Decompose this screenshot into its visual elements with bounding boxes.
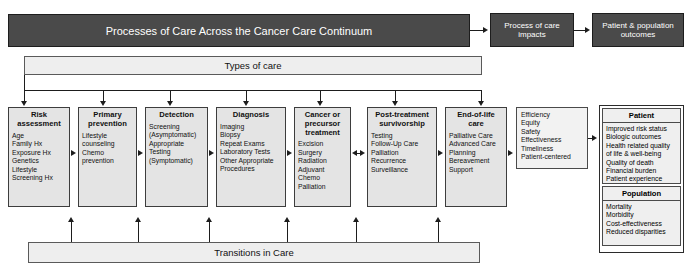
stage-box-post-treatment-survivorship[interactable]: Post-treatment survivorship Testing Foll… <box>367 107 437 207</box>
stage-items-end-of-life-care: Palliative Care Advanced Care Planning B… <box>449 132 503 175</box>
flow-arrow-prevention-to-detection <box>138 150 143 156</box>
stage-title-post-treatment-survivorship: Post-treatment survivorship <box>371 111 433 129</box>
riser-line-transitions-6 <box>438 222 439 242</box>
process-of-care-impacts-text: Process of care impacts <box>491 21 573 40</box>
drop-arrow-risk-assessment <box>21 101 27 106</box>
stage-items-cancer-or-precursor-treatment: Excision Surgery Radiation Adjuvant Chem… <box>298 140 347 191</box>
stage-box-diagnosis[interactable]: Diagnosis Imaging Biopsy Repeat Exams La… <box>216 107 286 207</box>
outcomes-population-items: Mortality Morbidity Cost-effectiveness R… <box>602 201 681 246</box>
outcomes-patient-items: Improved risk status Biologic outcomes H… <box>602 123 681 184</box>
drop-line-post-treatment <box>395 90 396 101</box>
riser-arrow-transitions-5 <box>353 217 359 222</box>
drop-arrow-end-of-life <box>478 101 484 106</box>
riser-line-transitions-2 <box>138 222 139 242</box>
stage-box-end-of-life-care[interactable]: End-of-life care Palliative Care Advance… <box>445 107 507 207</box>
flow-arrow-risk-to-prevention <box>71 150 76 156</box>
stage-title-primary-prevention: Primary prevention <box>82 111 133 129</box>
main-title-text: Processes of Care Across the Cancer Care… <box>106 25 373 37</box>
banner-to-impacts-line <box>470 30 483 31</box>
patient-population-outcomes-text: Patient & population outcomes <box>593 21 683 40</box>
stage-items-post-treatment-survivorship: Testing Follow-Up Care Palliation Recurr… <box>371 132 433 175</box>
riser-line-transitions-5 <box>356 222 357 242</box>
drop-line-cancer-treatment <box>320 90 321 101</box>
drop-line-risk-assessment <box>24 90 25 101</box>
stage-box-detection[interactable]: Detection Screening (Asymptomatic) Appro… <box>145 107 208 207</box>
process-of-care-impacts-box: Process of care impacts <box>490 13 574 47</box>
stage-items-risk-assessment: Age Family Hx Exposure Hx Genetics Lifes… <box>12 132 66 183</box>
stage-items-diagnosis: Imaging Biopsy Repeat Exams Laboratory T… <box>220 123 282 174</box>
main-title-banner: Processes of Care Across the Cancer Care… <box>8 14 470 47</box>
quality-to-outcomes-arrow <box>592 135 597 141</box>
stage-title-detection: Detection <box>149 111 204 120</box>
types-of-care-left-riser <box>24 75 25 90</box>
transitions-in-care-text: Transitions in Care <box>214 247 293 258</box>
stage-box-primary-prevention[interactable]: Primary prevention Lifestyle counseling … <box>78 107 137 207</box>
drop-arrow-primary-prevention <box>100 101 106 106</box>
transitions-in-care-bar: Transitions in Care <box>28 242 480 263</box>
riser-arrow-transitions-4 <box>284 217 290 222</box>
stage-title-cancer-or-precursor-treatment: Cancer or precursor treatment <box>298 111 347 137</box>
drop-arrow-cancer-treatment <box>317 101 323 106</box>
types-of-care-text: Types of care <box>224 60 281 71</box>
drop-line-primary-prevention <box>103 90 104 101</box>
stage-title-end-of-life-care: End-of-life care <box>449 111 503 129</box>
stage-title-risk-assessment: Risk assessment <box>12 111 66 129</box>
types-of-care-bar: Types of care <box>24 56 482 75</box>
riser-arrow-transitions-6 <box>435 217 441 222</box>
stage-items-detection: Screening (Asymptomatic) Appropriate Tes… <box>149 123 204 166</box>
riser-line-transitions-3 <box>209 222 210 242</box>
outcomes-population-title: Population <box>602 186 681 201</box>
flow-arrow-survivorship-to-eol <box>438 150 443 156</box>
stage-title-diagnosis: Diagnosis <box>220 111 282 120</box>
flow-arrow-treatment-to-survivorship <box>360 150 365 156</box>
flow-arrow-diagnosis-to-treatment <box>287 150 292 156</box>
stage-box-risk-assessment[interactable]: Risk assessment Age Family Hx Exposure H… <box>8 107 70 207</box>
stage-box-cancer-or-precursor-treatment[interactable]: Cancer or precursor treatment Excision S… <box>294 107 351 207</box>
drop-arrow-diagnosis <box>243 101 249 106</box>
flow-arrow-detection-to-diagnosis <box>209 150 214 156</box>
stage-items-primary-prevention: Lifestyle counseling Chemo prevention <box>82 132 133 166</box>
outcomes-panel: Patient Improved risk status Biologic ou… <box>599 105 684 253</box>
outcomes-patient-title: Patient <box>602 108 681 123</box>
drop-line-detection <box>170 90 171 101</box>
diagram-canvas: Processes of Care Across the Cancer Care… <box>0 0 688 269</box>
drop-arrow-post-treatment <box>392 101 398 106</box>
riser-arrow-transitions-2 <box>135 217 141 222</box>
banner-to-impacts-arrow <box>483 27 488 33</box>
quality-domains-box[interactable]: Efficiency Equity Safety Effectiveness T… <box>516 107 588 169</box>
types-of-care-spine <box>24 90 482 91</box>
impacts-to-outcomes-arrow <box>585 27 590 33</box>
impacts-to-outcomes-line <box>574 30 585 31</box>
riser-line-transitions-1 <box>71 222 72 242</box>
drop-line-end-of-life <box>481 90 482 101</box>
drop-line-diagnosis <box>246 90 247 101</box>
riser-line-transitions-4 <box>287 222 288 242</box>
riser-arrow-transitions-1 <box>68 217 74 222</box>
riser-arrow-transitions-3 <box>206 217 212 222</box>
flow-arrow-eol-to-quality-domains <box>508 150 513 156</box>
drop-arrow-detection <box>167 101 173 106</box>
patient-population-outcomes-box: Patient & population outcomes <box>592 13 684 47</box>
